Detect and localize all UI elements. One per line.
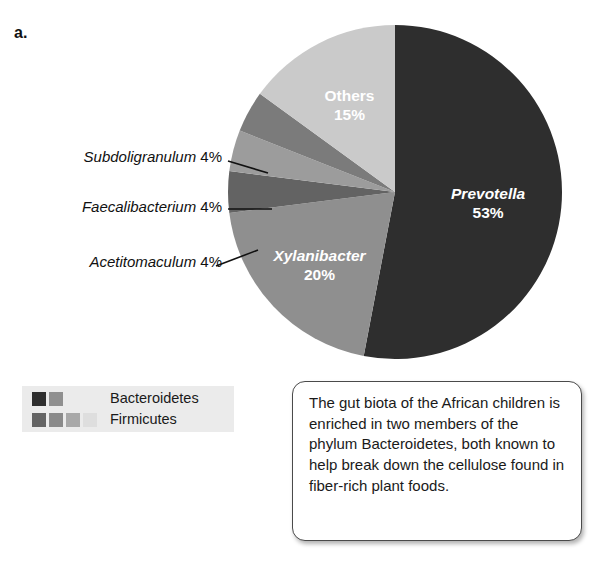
chart-legend: Bacteroidetes Firmicutes bbox=[22, 386, 234, 432]
legend-swatches-firmicutes bbox=[32, 413, 110, 427]
callout-value-faecalibacterium: 4% bbox=[200, 198, 222, 215]
legend-swatch-firmicutes-3 bbox=[83, 413, 97, 427]
legend-label-bacteroidetes: Bacteroidetes bbox=[110, 391, 199, 406]
callout-value-acetitomaculum: 4% bbox=[200, 253, 222, 270]
callout-label-faecalibacterium: Faecalibacterium 4% bbox=[8, 198, 222, 215]
legend-row-firmicutes: Firmicutes bbox=[22, 409, 234, 430]
pie-slice-label-value: 20% bbox=[304, 266, 335, 283]
callout-name-faecalibacterium: Faecalibacterium bbox=[82, 198, 196, 215]
panel-letter: a. bbox=[14, 24, 28, 42]
legend-label-firmicutes: Firmicutes bbox=[110, 412, 177, 427]
callout-label-acetitomaculum: Acetitomaculum 4% bbox=[8, 253, 222, 270]
pie-slice-label-name: Prevotella bbox=[451, 185, 525, 202]
callout-name-subdoligranulum: Subdoligranulum bbox=[84, 148, 197, 165]
pie-chart: Prevotella53%Xylanibacter20%Others15% bbox=[227, 24, 563, 360]
callout-value-subdoligranulum: 4% bbox=[200, 148, 222, 165]
callout-name-acetitomaculum: Acetitomaculum bbox=[89, 253, 196, 270]
legend-row-bacteroidetes: Bacteroidetes bbox=[22, 388, 234, 409]
pie-slice-label-name: Others bbox=[325, 87, 375, 104]
legend-swatches-bacteroidetes bbox=[32, 392, 110, 406]
caption-text: The gut biota of the African children is… bbox=[309, 393, 567, 496]
legend-swatch-bacteroidetes-0 bbox=[32, 392, 46, 406]
caption-callout-box: The gut biota of the African children is… bbox=[292, 381, 582, 541]
figure-root: a. Prevotella53%Xylanibacter20%Others15%… bbox=[0, 0, 610, 566]
callout-label-subdoligranulum: Subdoligranulum 4% bbox=[8, 148, 222, 165]
legend-swatch-firmicutes-1 bbox=[49, 413, 63, 427]
pie-slice-label-value: 15% bbox=[334, 106, 365, 123]
pie-slice-label-value: 53% bbox=[473, 204, 504, 221]
pie-slice-label-name: Xylanibacter bbox=[272, 247, 366, 264]
pie-chart-svg: Prevotella53%Xylanibacter20%Others15% bbox=[227, 24, 563, 360]
legend-swatch-firmicutes-2 bbox=[66, 413, 80, 427]
legend-swatch-firmicutes-0 bbox=[32, 413, 46, 427]
legend-swatch-bacteroidetes-1 bbox=[49, 392, 63, 406]
